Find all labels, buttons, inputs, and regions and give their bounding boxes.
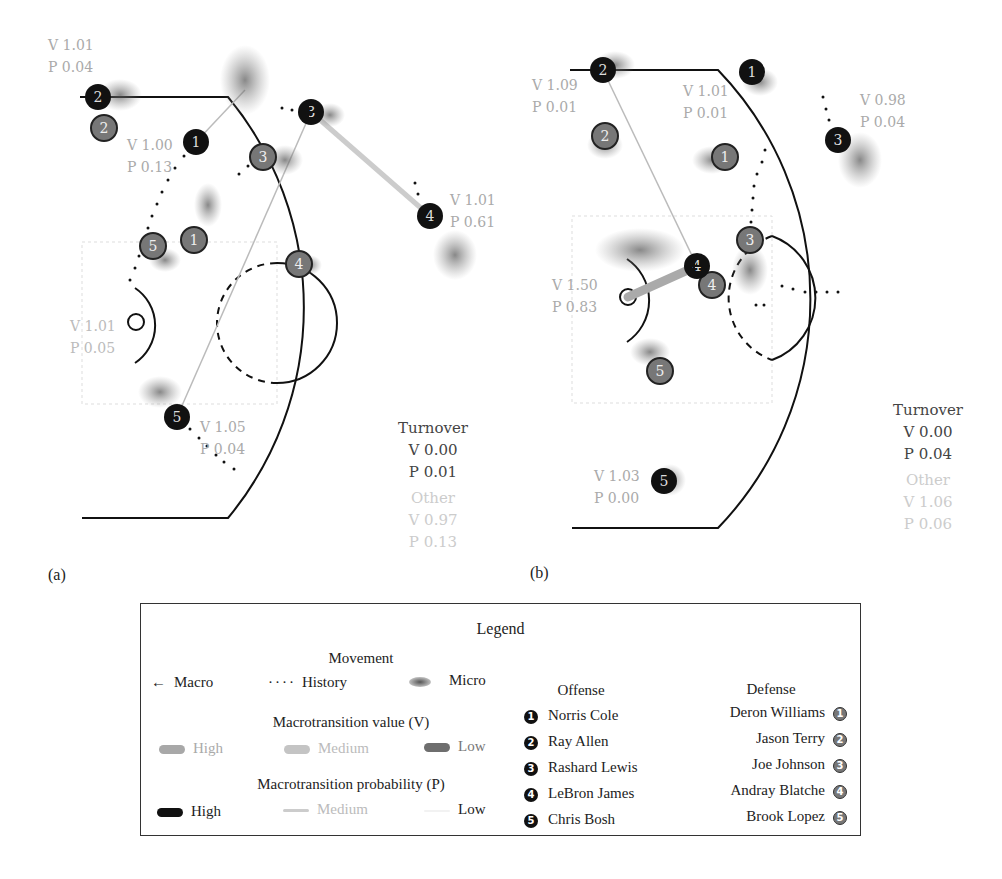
panel-label-a: (a) (48, 566, 66, 584)
svg-text:1: 1 (721, 149, 730, 165)
svg-text:5: 5 (656, 363, 665, 379)
offense-heading: Offense (531, 682, 631, 699)
svg-text:3: 3 (746, 232, 755, 248)
probability-high-swatch (157, 808, 183, 817)
defense-heading: Defense (721, 681, 821, 698)
offense-player-marker: 3 (825, 127, 851, 153)
offense-player-marker: 2 (590, 57, 616, 83)
defense-player-3: Joe Johnson3 (752, 756, 847, 773)
defense-player-5: Brook Lopez5 (746, 808, 847, 825)
svg-text:5: 5 (149, 238, 158, 254)
offense-player-marker: 5 (651, 468, 677, 494)
movement-heading: Movement (281, 650, 441, 667)
svg-text:1: 1 (748, 64, 757, 80)
value-label: V 1.00 (126, 137, 173, 153)
svg-text:3: 3 (259, 149, 268, 165)
legend-title: Legend (141, 620, 860, 638)
value-low-swatch (424, 743, 450, 752)
defense-player-marker: 4 (286, 251, 312, 277)
defense-player-4: Andray Blatche4 (730, 782, 847, 799)
svg-text:2: 2 (601, 128, 610, 144)
value-medium: Medium (284, 740, 369, 757)
defense-player-marker: 1 (181, 227, 207, 253)
offense-player-4: 4LeBron James (524, 785, 634, 802)
offense-player-marker: 4 (684, 253, 710, 279)
svg-text:P 0.05: P 0.05 (70, 340, 115, 356)
legend-macro: ←Macro (151, 674, 213, 691)
svg-text:1: 1 (192, 134, 201, 150)
offense-player-1: 1Norris Cole (524, 707, 618, 724)
value-high-swatch (159, 745, 185, 754)
value-label: V 1.01 (47, 37, 94, 53)
value-low: Low (424, 738, 486, 755)
legend: Legend Movement ←Macro ····History Micro… (140, 603, 861, 836)
probability-label: P 0.04 (48, 59, 93, 75)
panel-label-b: (b) (530, 564, 549, 582)
svg-text:5: 5 (173, 409, 182, 425)
probability-label: P 0.01 (683, 105, 728, 121)
defense-player-marker: 5 (140, 233, 166, 259)
defense-player-2: Jason Terry2 (756, 730, 847, 747)
other-stat: Other (906, 471, 951, 489)
legend-history: ····History (268, 674, 347, 691)
probability-label: P 0.00 (594, 490, 639, 506)
turnover-stat: V 0.00 (903, 423, 953, 441)
other-stat: Other (411, 489, 456, 507)
offense-player-marker: 1 (183, 129, 209, 155)
svg-text:V 1.01: V 1.01 (69, 318, 116, 334)
value-label: V 1.05 (199, 419, 246, 435)
probability-label: P 0.83 (552, 299, 597, 315)
value-heading: Macrotransition value (V) (201, 714, 501, 731)
value-label: V 1.01 (682, 83, 729, 99)
defense-player-1: Deron Williams1 (730, 704, 847, 721)
defense-player-marker: 3 (737, 227, 763, 253)
value-label: V 0.98 (859, 92, 906, 108)
court-b (570, 51, 882, 528)
value-label: V 1.01 (449, 192, 496, 208)
offense-player-marker: 4 (417, 203, 443, 229)
value-label: V 1.03 (593, 468, 640, 484)
value-label: V 1.50 (551, 277, 598, 293)
turnover-stat: Turnover (398, 419, 469, 437)
other-stat: P 0.13 (409, 533, 457, 551)
offense-player-marker: 1 (739, 59, 765, 85)
probability-label: P 0.61 (450, 214, 495, 230)
defense-player-marker: 2 (592, 123, 618, 149)
arrow-left-icon: ← (151, 674, 166, 690)
turnover-stat: P 0.01 (409, 463, 457, 481)
probability-label: P 0.01 (532, 99, 577, 115)
svg-text:4: 4 (708, 277, 717, 293)
offense-player-marker: 2 (85, 84, 111, 110)
svg-text:1: 1 (190, 232, 199, 248)
legend-micro: Micro (409, 672, 486, 689)
other-stat: V 0.97 (408, 511, 458, 529)
defense-player-marker: 2 (91, 115, 117, 141)
svg-text:4: 4 (426, 208, 435, 224)
probability-low: Low (424, 801, 486, 818)
court-figure: 123451V 1.00P 0.132V 1.01P 0.0434V 1.01P… (0, 0, 1002, 600)
blur-cone-icon (409, 677, 431, 687)
defense-player-marker: 5 (647, 358, 673, 384)
offense-player-marker: 3 (298, 99, 324, 125)
probability-high: High (157, 803, 221, 820)
probability-medium-swatch (283, 809, 309, 812)
svg-text:2: 2 (100, 120, 109, 136)
svg-text:2: 2 (94, 89, 103, 105)
turnover-stat: Turnover (893, 401, 964, 419)
value-high: High (159, 740, 223, 757)
offense-player-5: 5Chris Bosh (524, 811, 615, 828)
offense-player-2: 2Ray Allen (524, 733, 608, 750)
offense-player-marker: 5 (164, 404, 190, 430)
value-medium-swatch (284, 745, 310, 754)
probability-heading: Macrotransition probability (P) (196, 776, 506, 793)
svg-text:5: 5 (660, 473, 669, 489)
dotted-line-icon: ···· (268, 674, 296, 690)
probability-label: P 0.13 (127, 159, 172, 175)
probability-medium: Medium (283, 801, 368, 818)
svg-text:3: 3 (834, 132, 843, 148)
turnover-stat: P 0.04 (904, 445, 952, 463)
value-label: V 1.09 (531, 77, 578, 93)
defense-player-marker: 1 (712, 144, 738, 170)
probability-label: P 0.04 (860, 114, 905, 130)
probability-low-swatch (424, 810, 450, 812)
